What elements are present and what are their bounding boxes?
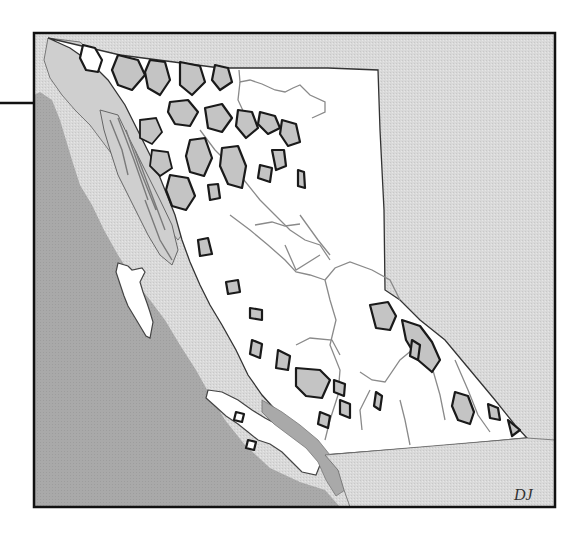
bc-glacier-map: DJ (0, 0, 585, 533)
artist-signature: DJ (513, 486, 534, 503)
map-svg: DJ (0, 0, 585, 533)
